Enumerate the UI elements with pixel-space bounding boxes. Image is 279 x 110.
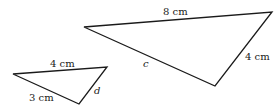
small-triangle-side-d-label: d	[94, 85, 100, 96]
large-triangle: 8 cm 4 cm c	[84, 6, 272, 86]
large-triangle-right-label: 4 cm	[245, 51, 270, 62]
similar-triangles-diagram: 8 cm 4 cm c 4 cm 3 cm d	[0, 0, 279, 110]
small-triangle-outline	[13, 67, 107, 104]
small-triangle: 4 cm 3 cm d	[13, 58, 107, 104]
large-triangle-outline	[84, 12, 272, 86]
small-triangle-left-label: 3 cm	[29, 92, 54, 103]
small-triangle-top-label: 4 cm	[50, 58, 75, 69]
large-triangle-side-c-label: c	[143, 58, 149, 69]
large-triangle-top-label: 8 cm	[163, 6, 188, 17]
